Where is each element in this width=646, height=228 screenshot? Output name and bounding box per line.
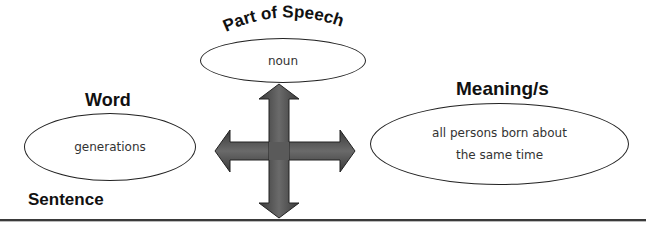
part-of-speech-ellipse: noun xyxy=(200,38,366,83)
meaning-title: Meaning/s xyxy=(456,78,549,100)
word-ellipse: generations xyxy=(24,113,196,181)
four-way-arrow-icon xyxy=(215,84,355,218)
meaning-ellipse: all persons born about the same time xyxy=(370,103,629,185)
meaning-value-line2: the same time xyxy=(456,144,543,166)
meaning-value-line1: all persons born about xyxy=(432,122,567,144)
part-of-speech-title: Part of Speech xyxy=(220,2,346,35)
part-of-speech-value: noun xyxy=(268,50,298,72)
sentence-title: Sentence xyxy=(28,190,104,210)
sentence-divider-shadow xyxy=(0,221,646,222)
word-value: generations xyxy=(74,136,146,158)
word-title: Word xyxy=(85,90,131,111)
